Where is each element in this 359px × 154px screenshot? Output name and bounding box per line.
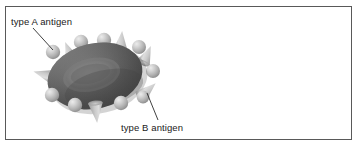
figure-canvas: type A antigen type B antigen — [0, 0, 359, 154]
label-type-b-antigen: type B antigen — [121, 122, 183, 133]
type-a-antigen-sphere — [137, 91, 150, 104]
type-a-antigen-sphere — [46, 45, 60, 59]
leader-line-type-b — [147, 93, 158, 120]
leader-line-type-a — [33, 28, 53, 50]
type-a-antigen-sphere — [146, 64, 160, 78]
type-a-antigen-sphere — [68, 98, 82, 112]
type-a-antigen-sphere — [132, 40, 146, 54]
type-a-antigen-sphere — [45, 88, 59, 102]
type-a-antigen-sphere — [114, 96, 128, 110]
figure-screenshot: type A antigen type B antigen — [0, 0, 359, 154]
label-type-a-antigen: type A antigen — [11, 16, 72, 27]
